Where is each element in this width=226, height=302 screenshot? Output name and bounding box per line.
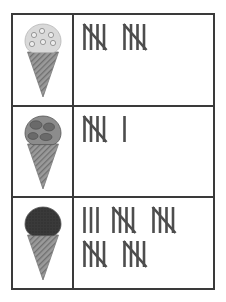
- chip-detail: [40, 39, 45, 44]
- swirl-detail: [30, 120, 42, 128]
- chip-detail: [39, 28, 44, 33]
- tally-group-5: [82, 22, 112, 52]
- icon-cell: [13, 15, 74, 105]
- swirl-detail: [28, 132, 38, 139]
- ice-cream-cone-medium-icon: [20, 113, 66, 191]
- cone-shape: [27, 235, 58, 280]
- tally-table: [11, 13, 215, 290]
- table-row: [13, 198, 213, 288]
- tally-cell: [74, 198, 213, 288]
- tally-cell: [74, 107, 213, 197]
- tally-group-5: [122, 239, 152, 269]
- cone-shape: [27, 52, 58, 97]
- tally-group-5: [151, 205, 181, 235]
- swirl-detail: [43, 123, 54, 131]
- tally-group-1: [122, 114, 128, 144]
- ice-cream-cone-dark-icon: [20, 204, 66, 282]
- table-row: [13, 15, 213, 107]
- tally-cell: [74, 15, 213, 105]
- tally-group-5: [122, 22, 152, 52]
- chip-detail: [48, 32, 53, 37]
- chip-detail: [31, 32, 36, 37]
- icon-cell: [13, 198, 74, 288]
- chip-detail: [29, 41, 34, 46]
- tally-group-5: [82, 239, 112, 269]
- chip-detail: [50, 40, 55, 45]
- worksheet-page: [0, 0, 226, 302]
- tally-group-3: [82, 205, 101, 235]
- tally-group-5: [111, 205, 141, 235]
- scoop-shape: [25, 207, 61, 236]
- tally-group-5: [82, 114, 112, 144]
- cone-shape: [27, 144, 58, 189]
- swirl-detail: [40, 133, 52, 140]
- table-row: [13, 107, 213, 199]
- ice-cream-cone-light-chip-icon: [20, 21, 66, 99]
- icon-cell: [13, 107, 74, 197]
